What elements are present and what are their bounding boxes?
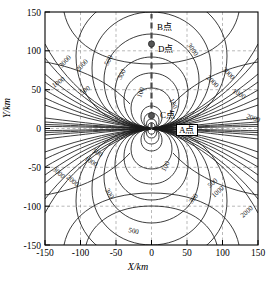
y-tick-label: -100 xyxy=(24,202,42,212)
annotation-label-c: C点 xyxy=(160,108,175,121)
y-tick-label: -50 xyxy=(28,163,41,173)
contour-chart-svg: 3000 2000 1000 500 500 300 100 100 3000 … xyxy=(0,0,276,281)
x-tick-label: 50 xyxy=(182,248,192,258)
y-tick-label: 0 xyxy=(36,124,41,134)
annotation-label-d: D点 xyxy=(158,42,174,55)
y-tick-label: 50 xyxy=(32,85,42,95)
y-axis-title-text: Y/km xyxy=(1,98,12,118)
annotation-label-b: B点 xyxy=(157,20,172,33)
x-tick-label: 0 xyxy=(149,248,154,258)
marker-point-c xyxy=(148,113,154,119)
y-tick-labels: -150 -100 -50 0 50 100 150 xyxy=(24,8,42,251)
x-axis-title: X/km xyxy=(0,261,276,272)
x-tick-labels: -150 -100 -50 0 50 100 150 xyxy=(36,248,265,258)
x-tick-label: -50 xyxy=(110,248,123,258)
y-tick-label: 150 xyxy=(27,8,42,18)
x-tick-label: -100 xyxy=(72,248,90,258)
marker-point-d xyxy=(148,41,154,47)
contour-plot-figure: 3000 2000 1000 500 500 300 100 100 3000 … xyxy=(0,0,276,281)
y-axis-title: Y/km xyxy=(1,98,12,118)
annotation-label-a: A点 xyxy=(176,124,198,136)
y-tick-label: -150 xyxy=(24,241,42,251)
x-tick-label: 100 xyxy=(215,248,230,258)
x-tick-label: 150 xyxy=(251,248,266,258)
x-axis-title-text: X/km xyxy=(128,261,149,272)
y-tick-label: 100 xyxy=(27,46,42,56)
